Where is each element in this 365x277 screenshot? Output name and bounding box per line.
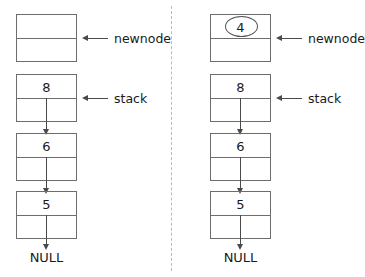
link-arrow-0-1 (236, 98, 245, 135)
link-arrow-0-1 (42, 98, 51, 135)
newnode-box: 4 (210, 14, 271, 62)
panel-after: 4 newnode 8 stack 6 (182, 0, 364, 277)
node-value: 5 (211, 194, 270, 215)
newnode-value: 4 (211, 17, 270, 38)
link-arrow-2-null (42, 215, 51, 250)
arrow-left-icon (82, 94, 108, 103)
panel-before: newnode 8 stack 6 5 (0, 0, 182, 277)
node-value: 6 (211, 136, 270, 157)
node-value: 6 (17, 136, 76, 157)
link-arrow-2-null (236, 215, 245, 250)
newnode-label: newnode (114, 31, 171, 46)
node-value: 5 (17, 194, 76, 215)
newnode-value (17, 17, 76, 38)
newnode-label: newnode (308, 31, 365, 46)
newnode-callout: newnode (276, 30, 365, 46)
link-arrow-1-2 (236, 157, 245, 194)
newnode-callout: newnode (82, 30, 171, 46)
arrow-left-icon (276, 94, 302, 103)
stack-label: stack (114, 91, 147, 106)
arrow-left-icon (82, 34, 108, 43)
stack-callout: stack (82, 90, 147, 106)
node-value: 8 (211, 77, 270, 98)
panel-divider (171, 6, 172, 271)
arrow-left-icon (276, 34, 302, 43)
stack-label: stack (308, 91, 341, 106)
newnode-box (16, 14, 77, 62)
node-half-divider (17, 38, 76, 39)
node-half-divider (211, 38, 270, 39)
null-terminator: NULL (16, 250, 77, 265)
null-terminator: NULL (210, 250, 271, 265)
stack-callout: stack (276, 90, 341, 106)
node-value: 8 (17, 77, 76, 98)
link-arrow-1-2 (42, 157, 51, 194)
